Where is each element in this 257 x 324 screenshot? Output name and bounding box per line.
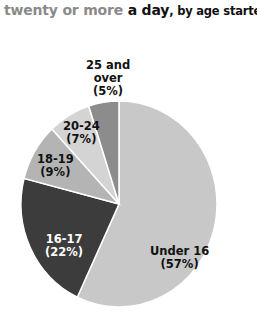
label-25-and-over: 25 and over (5%) — [86, 59, 130, 98]
label-under-16: Under 16 (57%) — [150, 245, 209, 271]
label-pct: (9%) — [37, 166, 74, 179]
label-20-24: 20-24 (7%) — [63, 120, 100, 146]
label-16-17: 16-17 (22%) — [45, 233, 83, 259]
label-pct: (7%) — [63, 133, 100, 146]
label-pct: (57%) — [150, 258, 209, 271]
label-pct: (5%) — [86, 85, 130, 98]
label-18-19: 18-19 (9%) — [37, 153, 74, 179]
label-pct: (22%) — [45, 246, 83, 259]
